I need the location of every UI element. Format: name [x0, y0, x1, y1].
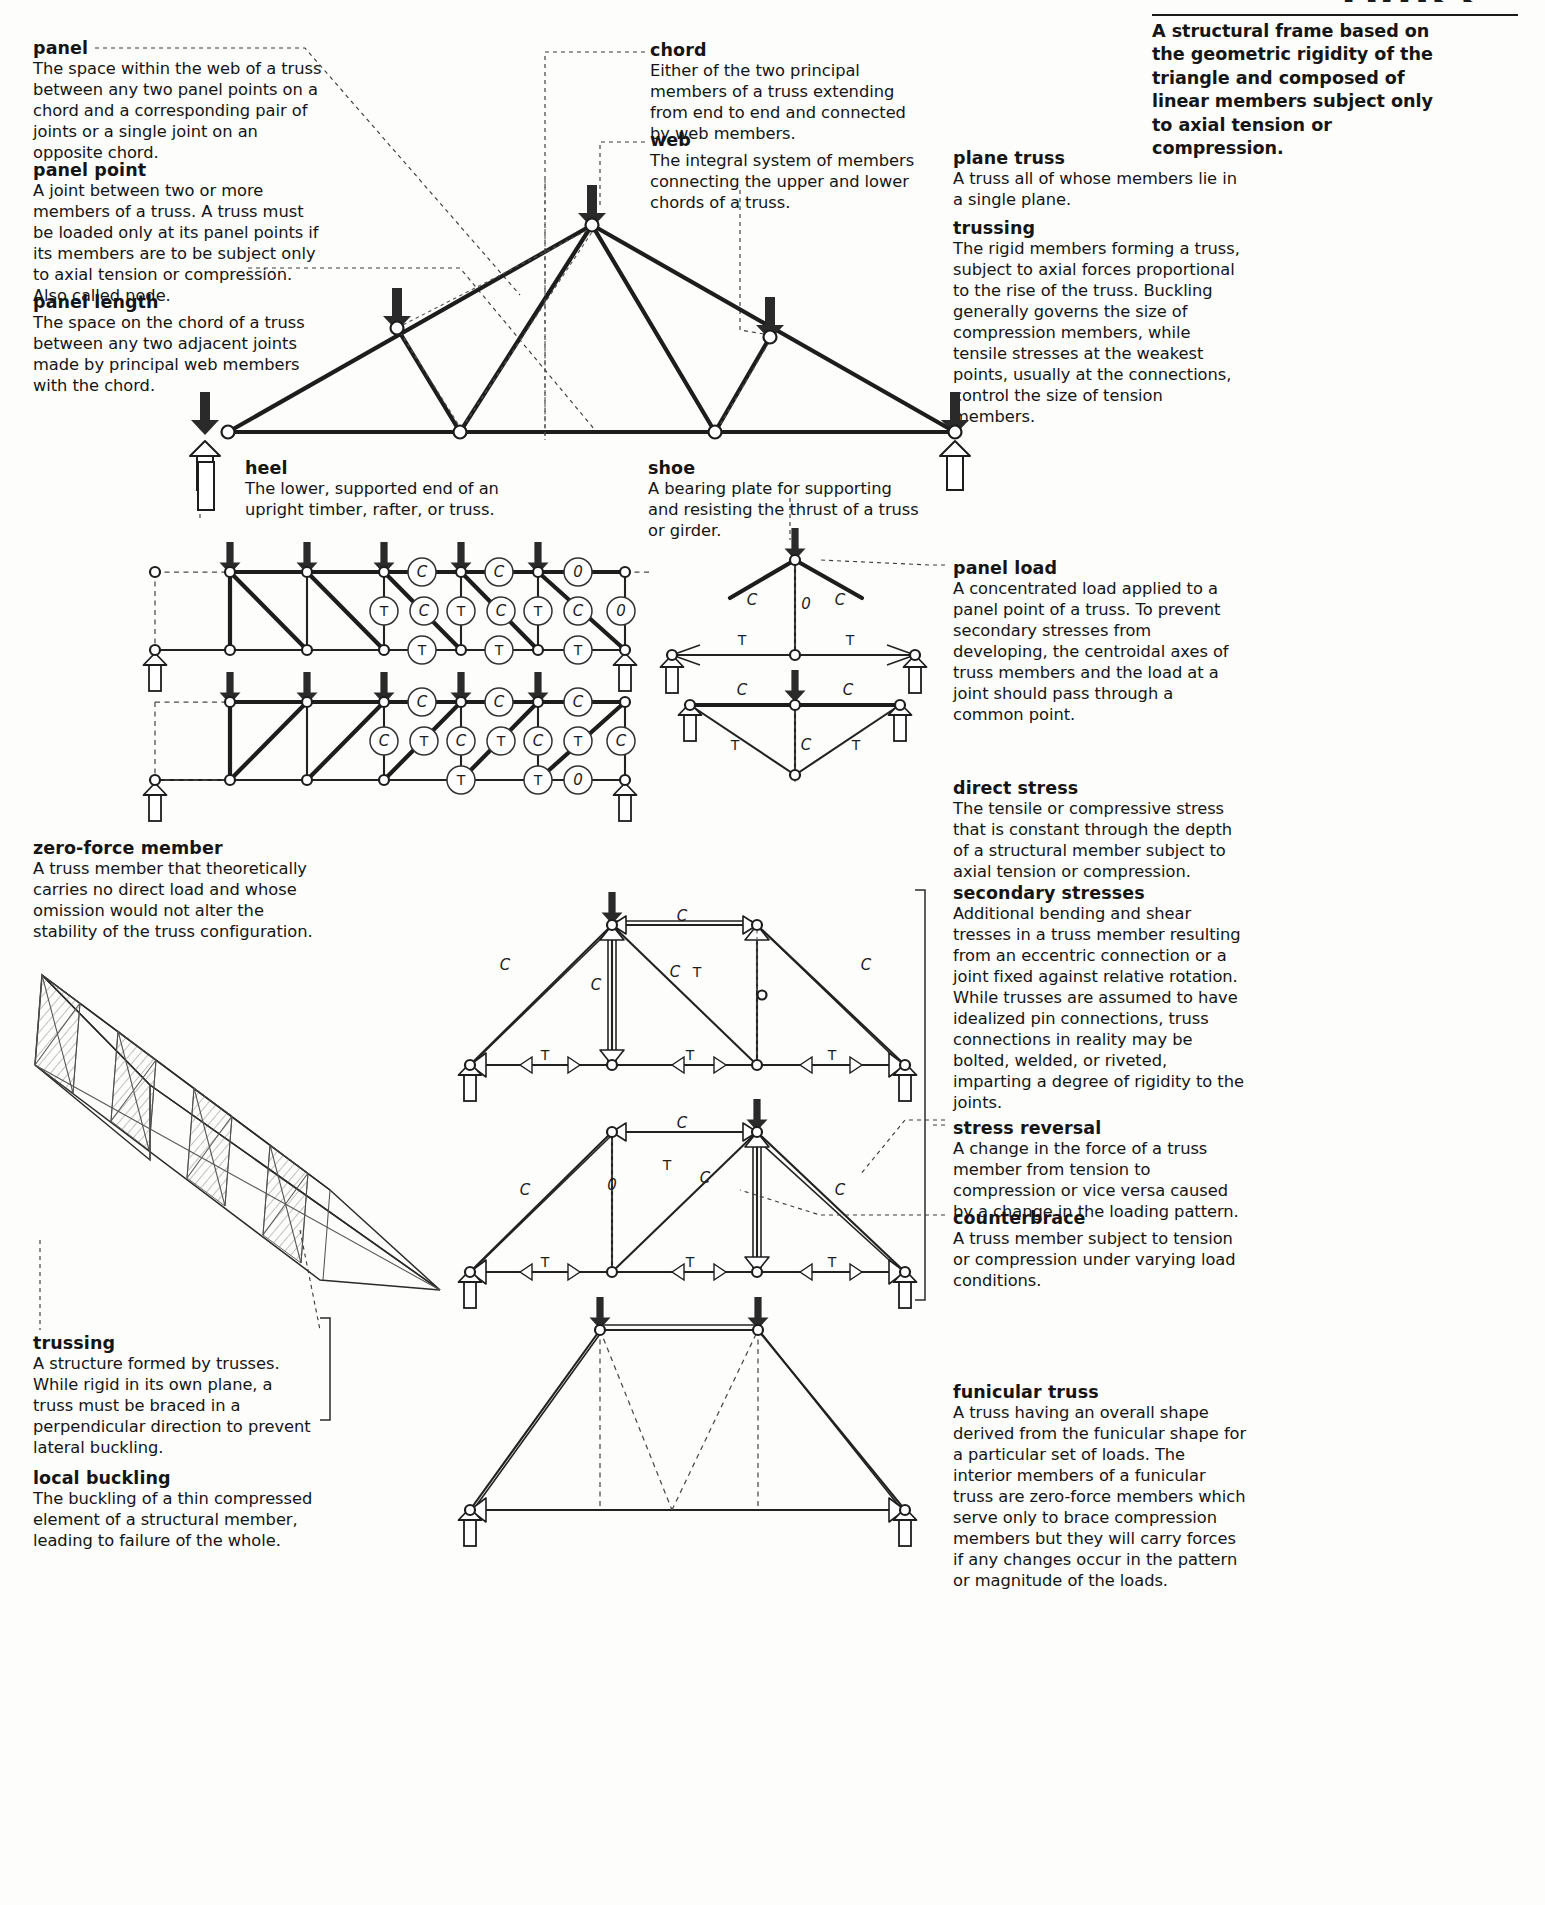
svg-text:T: T [730, 737, 740, 753]
svg-text:C: C [737, 681, 748, 699]
entry-shoe: shoe A bearing plate for supporting and … [648, 458, 926, 542]
svg-text:C: C [533, 732, 544, 750]
term-stress-reversal: stress reversal [953, 1118, 1245, 1138]
svg-text:0: 0 [607, 1176, 617, 1194]
svg-text:T: T [494, 642, 504, 658]
panel-point [764, 331, 777, 344]
isometric-trussing-diagram [35, 975, 440, 1330]
svg-text:C: C [500, 956, 511, 974]
term-direct-stress: direct stress [953, 778, 1245, 798]
definition-panel-load: A concentrated load applied to a panel p… [953, 579, 1248, 726]
force-label: C [487, 597, 515, 625]
force-label: T [410, 727, 438, 755]
svg-text:T: T [417, 642, 427, 658]
term-local-buckling: local buckling [33, 1468, 323, 1488]
term-secondary-stresses: secondary stresses [953, 883, 1248, 903]
force-label: T [370, 597, 398, 625]
force-label: 0 [564, 558, 592, 586]
term-web: web [650, 130, 918, 150]
joint-equilibrium-lower-diagram: C C T T C [679, 670, 912, 782]
force-label: T [487, 727, 515, 755]
term-panel-length: panel length [33, 292, 318, 312]
definition-plane-truss: A truss all of whose members lie in a si… [953, 169, 1248, 211]
definition-direct-stress: The tensile or compressive stress that i… [953, 799, 1245, 883]
svg-text:0: 0 [573, 771, 583, 789]
svg-text:C: C [616, 732, 627, 750]
definition-local-buckling: The buckling of a thin compressed elemen… [33, 1489, 323, 1552]
svg-text:T: T [540, 1047, 550, 1063]
term-panel-point: panel point [33, 160, 325, 180]
force-label: T [564, 636, 592, 664]
page-title: TRUSS [1335, 0, 1545, 2]
svg-text:T: T [533, 603, 543, 619]
force-label: C [564, 597, 592, 625]
pratt-truss-lower-diagram: C C C C T C T C T C T T 0 [144, 672, 637, 821]
svg-text:C: C [573, 693, 584, 711]
header-rule [1152, 14, 1518, 16]
force-label: T [564, 727, 592, 755]
svg-text:C: C [494, 693, 505, 711]
entry-zero-force-member: zero-force member A truss member that th… [33, 838, 318, 943]
definition-shoe: A bearing plate for supporting and resis… [648, 479, 926, 542]
svg-text:C: C [419, 602, 430, 620]
panel-point [586, 219, 599, 232]
load-arrow-left-heel [191, 392, 219, 435]
leader-lines-right [820, 560, 945, 1125]
entry-trussing-members: trussing The rigid members forming a tru… [953, 218, 1243, 428]
entry-plane-truss: plane truss A truss all of whose members… [953, 148, 1248, 211]
force-label: C [524, 727, 552, 755]
svg-text:T: T [827, 1254, 837, 1270]
svg-text:T: T [827, 1047, 837, 1063]
svg-text:C: C [801, 736, 812, 754]
term-plane-truss: plane truss [953, 148, 1248, 168]
force-label: 0 [564, 766, 592, 794]
definition-heel: The lower, supported end of an upright t… [245, 479, 525, 521]
term-chord: chord [650, 40, 918, 60]
term-counterbrace: counterbrace [953, 1208, 1245, 1228]
bracket-trussing [320, 1318, 330, 1420]
joint-equilibrium-upper-diagram: C C T T 0 [661, 528, 927, 693]
svg-text:T: T [496, 733, 506, 749]
svg-text:T: T [685, 1254, 695, 1270]
term-trussing-structure: trussing [33, 1333, 311, 1353]
svg-text:0: 0 [616, 602, 626, 620]
entry-panel: panel The space within the web of a trus… [33, 38, 323, 164]
shoe-plate-left [198, 462, 214, 510]
reaction-arrow-left [190, 441, 220, 490]
entry-counterbrace: counterbrace A truss member subject to t… [953, 1208, 1245, 1292]
header-lead-paragraph: A structural frame based on the geometri… [1152, 20, 1452, 160]
force-label: C [408, 558, 436, 586]
force-label: C [410, 597, 438, 625]
svg-text:T: T [573, 642, 583, 658]
reaction-arrow-right [940, 441, 970, 490]
force-label: T [524, 597, 552, 625]
svg-text:C: C [843, 681, 854, 699]
svg-text:T: T [685, 1047, 695, 1063]
panel-point [709, 426, 722, 439]
load-arrow-apex [578, 185, 606, 228]
svg-text:C: C [670, 963, 681, 981]
svg-text:C: C [835, 591, 846, 609]
svg-text:C: C [520, 1181, 531, 1199]
entry-panel-load: panel load A concentrated load applied t… [953, 558, 1248, 726]
entry-panel-point: panel point A joint between two or more … [33, 160, 325, 307]
dictionary-page: TRUSS A structural frame based on the ge… [0, 0, 1545, 1905]
entry-local-buckling: local buckling The buckling of a thin co… [33, 1468, 323, 1552]
load-arrow-left-upper [383, 288, 411, 331]
svg-text:C: C [417, 563, 428, 581]
definition-zero-force-member: A truss member that theoretically carrie… [33, 859, 318, 943]
force-label: C [564, 688, 592, 716]
svg-text:T: T [737, 632, 747, 648]
secondary-stress-truss-diagram: C C C C T C T T T [459, 890, 926, 1300]
force-label: C [408, 688, 436, 716]
svg-text:T: T [851, 737, 861, 753]
definition-counterbrace: A truss member subject to tension or com… [953, 1229, 1245, 1292]
definition-panel-point: A joint between two or more members of a… [33, 181, 325, 307]
entry-heel: heel The lower, supported end of an upri… [245, 458, 525, 521]
svg-text:T: T [540, 1254, 550, 1270]
panel-point [454, 426, 467, 439]
definition-funicular-truss: A truss having an overall shape derived … [953, 1403, 1248, 1591]
panel-point [391, 322, 404, 335]
force-label: C [485, 558, 513, 586]
term-trussing-members: trussing [953, 218, 1243, 238]
